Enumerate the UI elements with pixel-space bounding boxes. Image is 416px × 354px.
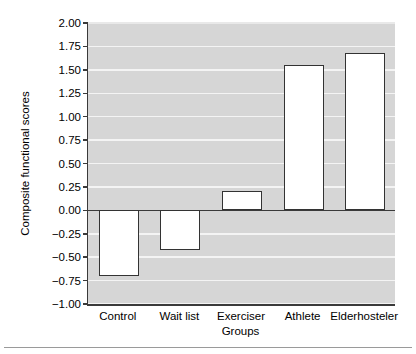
y-tick-label: 1.00: [33, 110, 81, 124]
y-tick-label: 1.50: [33, 63, 81, 77]
y-tick-label: 0.25: [33, 180, 81, 194]
y-tick-label: −0.75: [33, 274, 81, 288]
x-axis-line: [87, 304, 395, 306]
y-tick-label: −0.25: [33, 227, 81, 241]
y-tick-label: 0.00: [33, 203, 81, 217]
y-tick-label: 2.00: [33, 16, 81, 30]
x-axis-title: Groups: [87, 325, 394, 337]
gridline: [88, 280, 395, 282]
y-tick-label: −0.50: [33, 250, 81, 264]
y-tick-label: 0.50: [33, 157, 81, 171]
bar-elderhosteler[interactable]: [345, 53, 385, 210]
gridline: [88, 22, 395, 24]
x-tick-label-elderhosteler: Elderhosteler: [304, 308, 416, 324]
footer-divider: [4, 347, 412, 348]
gridline: [88, 46, 395, 48]
x-axis-tick-labels: ControlWait listExerciserAthleteElderhos…: [87, 308, 394, 326]
bar-athlete[interactable]: [284, 65, 324, 210]
plot-area: [87, 23, 395, 304]
bar-chart-figure: Composite functional scores 2.001.751.50…: [0, 0, 416, 354]
y-tick-label: 1.75: [33, 39, 81, 53]
bar-wait-list[interactable]: [160, 210, 200, 249]
y-tick-label: 1.25: [33, 86, 81, 100]
y-axis-tick-labels: 2.001.751.501.251.000.750.500.250.00−0.2…: [33, 23, 81, 304]
y-tick-label: 0.75: [33, 133, 81, 147]
bar-exerciser[interactable]: [222, 191, 262, 211]
bar-control[interactable]: [99, 210, 139, 276]
